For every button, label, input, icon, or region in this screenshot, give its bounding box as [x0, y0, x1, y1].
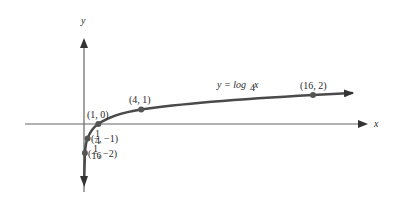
log-curve	[84, 93, 352, 180]
svg-text:, −1): , −1)	[99, 133, 118, 145]
point-quarter-neg1	[85, 136, 91, 142]
svg-text:y = log: y = log	[216, 79, 246, 90]
point-1-0	[95, 121, 101, 127]
log-graph: x y (1, 0) (4, 1) (16, 2) ( 1 4 , −1) ( …	[0, 0, 400, 203]
x-axis-label: x	[373, 118, 379, 129]
curve-down-arrow-icon	[80, 176, 88, 187]
svg-text:x: x	[253, 79, 259, 90]
svg-text:, −2): , −2)	[98, 148, 117, 160]
label-1-0: (1, 0)	[87, 109, 109, 121]
label-16-2: (16, 2)	[300, 80, 327, 92]
y-axis-label: y	[80, 15, 86, 26]
function-label: y = log 4 x	[216, 79, 259, 93]
point-16-2	[310, 92, 316, 98]
point-sixteenth-neg2	[82, 150, 88, 156]
label-sixteenth-neg2: ( 1 16 , −2)	[88, 143, 117, 161]
label-4-1: (4, 1)	[129, 94, 151, 106]
point-4-1	[138, 107, 144, 113]
